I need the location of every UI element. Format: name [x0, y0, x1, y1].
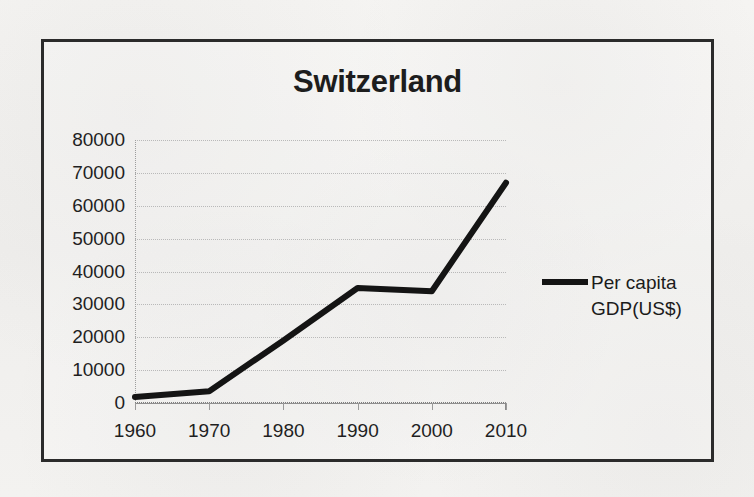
x-axis-tick-mark — [358, 403, 359, 410]
y-axis-tick-label: 20000 — [72, 326, 125, 348]
y-axis-tick-label: 80000 — [72, 129, 125, 151]
legend-line-swatch-icon — [542, 279, 588, 285]
y-axis-tick-label: 70000 — [72, 162, 125, 184]
gridline — [135, 403, 506, 404]
x-axis-tick-mark — [209, 403, 210, 410]
y-axis-tick-label: 0 — [114, 392, 125, 414]
x-axis-tick-mark — [506, 403, 507, 410]
x-axis-tick-label: 1960 — [114, 420, 156, 442]
x-axis-tick-mark — [283, 403, 284, 410]
x-axis-tick-mark — [432, 403, 433, 410]
data-series-per-capita-gdp — [135, 140, 506, 403]
x-axis-tick-mark — [135, 403, 136, 410]
chart-title: Switzerland — [44, 64, 711, 100]
x-axis-tick-label: 2000 — [411, 420, 453, 442]
legend-label-per-capita-gdp: Per capita GDP(US$) — [591, 270, 709, 321]
plot-area: 0100002000030000400005000060000700008000… — [135, 140, 506, 403]
y-axis-tick-label: 50000 — [72, 228, 125, 250]
y-axis-tick-label: 10000 — [72, 359, 125, 381]
chart-frame: Switzerland 0100002000030000400005000060… — [41, 39, 714, 462]
y-axis-tick-label: 60000 — [72, 195, 125, 217]
chart-legend: Per capita GDP(US$) — [542, 270, 709, 321]
x-axis-tick-label: 2010 — [485, 420, 527, 442]
y-axis-tick-label: 40000 — [72, 261, 125, 283]
x-axis-tick-label: 1980 — [262, 420, 304, 442]
y-axis-tick-label: 30000 — [72, 293, 125, 315]
x-axis-tick-label: 1970 — [188, 420, 230, 442]
x-axis-tick-label: 1990 — [336, 420, 378, 442]
